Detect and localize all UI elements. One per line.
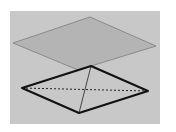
geometry-figure <box>0 0 176 132</box>
diagram-canvas <box>0 0 176 132</box>
